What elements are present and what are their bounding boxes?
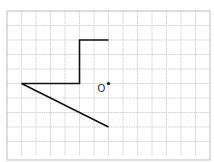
point-o-label: O	[98, 84, 106, 94]
point-o-dot	[107, 82, 110, 85]
grid-diagram	[0, 0, 214, 162]
